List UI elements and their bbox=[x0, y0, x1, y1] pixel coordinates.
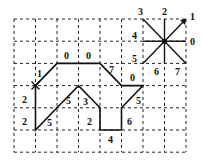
chain-code-label: 0 bbox=[64, 50, 69, 61]
chain-code-label: 2 bbox=[87, 116, 92, 127]
direction-label: 2 bbox=[162, 6, 167, 17]
direction-label: 4 bbox=[132, 30, 137, 41]
chain-code-label: 3 bbox=[83, 96, 88, 107]
chain-code-label: 2 bbox=[22, 116, 27, 127]
direction-arrow-3 bbox=[143, 19, 165, 41]
chain-code-diagram: 10070564235522 01234567 bbox=[0, 0, 202, 163]
direction-label: 0 bbox=[190, 36, 195, 47]
chain-code-labels: 10070564235522 bbox=[22, 50, 141, 145]
direction-arrow-5 bbox=[143, 41, 165, 63]
direction-label: 5 bbox=[132, 53, 137, 64]
chain-code-label: 6 bbox=[127, 116, 132, 127]
diagram-canvas: 10070564235522 01234567 bbox=[0, 0, 202, 163]
chain-code-label: 0 bbox=[130, 72, 135, 83]
dashed-grid bbox=[14, 19, 186, 152]
chain-code-label: 0 bbox=[86, 50, 91, 61]
direction-label: 6 bbox=[154, 66, 159, 77]
chain-code-label: 5 bbox=[66, 95, 71, 106]
chain-code-label: 5 bbox=[136, 95, 141, 106]
direction-label: 7 bbox=[175, 66, 180, 77]
chain-code-label: 5 bbox=[47, 117, 52, 128]
chain-code-label: 4 bbox=[108, 134, 113, 145]
direction-label: 3 bbox=[138, 6, 143, 17]
direction-label: 1 bbox=[190, 11, 195, 22]
chain-code-label: 2 bbox=[22, 94, 27, 105]
direction-arrow-7 bbox=[165, 41, 187, 63]
chain-code-label: 7 bbox=[109, 64, 114, 75]
chain-code-label: 1 bbox=[37, 68, 42, 79]
